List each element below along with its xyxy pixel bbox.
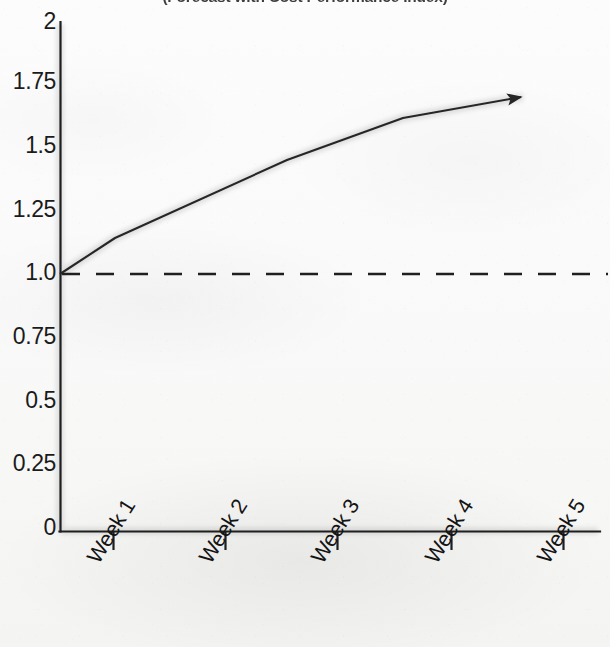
x-tick-label-week-2: Week 2 [196,496,252,567]
chart-page: (Forecast with Cost Performance Index) 2… [0,0,610,647]
x-tick-label-week-5: Week 5 [534,496,590,567]
x-axis-tick-labels: Week 1 Week 2 Week 3 Week 4 Week 5 [0,0,610,647]
x-tick-label-week-1: Week 1 [84,496,140,567]
x-tick-label-week-3: Week 3 [308,496,364,567]
x-tick-label-week-4: Week 4 [422,496,478,567]
